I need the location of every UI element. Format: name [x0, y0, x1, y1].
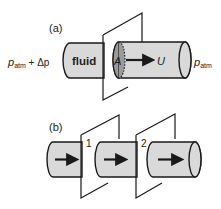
- tube-segment-1: [47, 142, 82, 177]
- right-pressure-label: patm: [193, 56, 212, 69]
- fluid-flow-diagram: (a) patm + Δp fluid A U: [0, 0, 221, 209]
- panel-b-label: (b): [49, 121, 62, 133]
- plane-1-label: 1: [86, 138, 92, 149]
- panel-a-label: (a): [49, 22, 62, 34]
- velocity-label: U: [157, 55, 165, 67]
- tube-segment-2: [95, 142, 137, 177]
- diagram-svg: (a) patm + Δp fluid A U: [0, 0, 221, 209]
- panel-b: (b) 1 2: [47, 114, 201, 198]
- panel-a: (a) patm + Δp fluid A U: [7, 13, 212, 100]
- tube-segment-3: [147, 142, 201, 177]
- plane-2-label: 2: [141, 138, 147, 149]
- left-tube: fluid: [63, 43, 104, 78]
- area-label: A: [113, 55, 121, 67]
- left-pressure-label: patm + Δp: [7, 56, 50, 69]
- fluid-label: fluid: [72, 55, 96, 67]
- right-tube: A U: [113, 42, 191, 78]
